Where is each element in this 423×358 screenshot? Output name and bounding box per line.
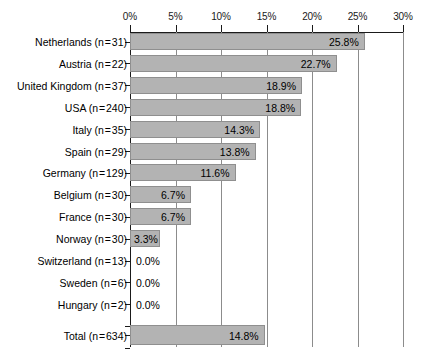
category-label: France (n = 30): [59, 211, 127, 223]
spacer-tick: [125, 348, 130, 349]
x-tick-label: 25%: [338, 11, 378, 22]
spacer-tick: [125, 326, 130, 327]
gridline: [403, 32, 404, 347]
category-label: Switzerland (n = 13): [37, 255, 127, 267]
x-tick-mark: [267, 25, 268, 32]
category-label: Netherlands (n = 31): [35, 36, 127, 48]
bar-value-label: 18.8%: [130, 102, 295, 114]
bar-chart: 0%5%10%15%20%25%30% Netherlands (n = 31)…: [0, 0, 423, 358]
gridline: [312, 32, 313, 347]
category-label: Spain (n = 29): [65, 146, 127, 158]
category-label: Sweden (n = 6): [60, 277, 127, 289]
bar-value-label: 18.9%: [130, 80, 296, 92]
total-label: Total (n = 634): [64, 330, 127, 342]
gridline: [358, 32, 359, 347]
x-tick-mark: [176, 25, 177, 32]
bar-value-label: 6.7%: [130, 211, 185, 223]
x-tick-mark: [130, 25, 131, 32]
bar-value-label: 13.8%: [130, 146, 250, 158]
category-label: Norway (n = 30): [56, 233, 127, 245]
total-value-label: 14.8%: [130, 330, 259, 342]
x-tick-label: 20%: [292, 11, 332, 22]
bar-value-label: 0.0%: [136, 299, 160, 311]
category-label: Hungary (n = 2): [58, 299, 127, 311]
category-label: Austria (n = 22): [59, 58, 127, 70]
bar-value-label: 0.0%: [136, 277, 160, 289]
x-tick-label: 5%: [156, 11, 196, 22]
x-tick-label: 0%: [110, 11, 150, 22]
bar-value-label: 6.7%: [130, 189, 185, 201]
bar-value-label: 3.3%: [134, 233, 158, 245]
x-tick-label: 30%: [383, 11, 423, 22]
x-tick-mark: [403, 25, 404, 32]
bar-value-label: 25.8%: [130, 36, 359, 48]
category-label: Belgium (n = 30): [54, 189, 127, 201]
category-label: Italy (n = 35): [72, 124, 127, 136]
x-tick-label: 10%: [201, 11, 241, 22]
x-tick-label: 15%: [247, 11, 287, 22]
bar-value-label: 14.3%: [130, 124, 254, 136]
bar-value-label: 0.0%: [136, 255, 160, 267]
category-label: USA (n = 240): [65, 102, 127, 114]
bar-value-label: 11.6%: [130, 167, 230, 179]
bar-value-label: 22.7%: [130, 58, 331, 70]
category-label: United Kingdom (n = 37): [17, 80, 127, 92]
x-tick-mark: [358, 25, 359, 32]
x-tick-mark: [221, 25, 222, 32]
x-tick-mark: [312, 25, 313, 32]
category-label: Germany (n = 129): [43, 167, 127, 179]
